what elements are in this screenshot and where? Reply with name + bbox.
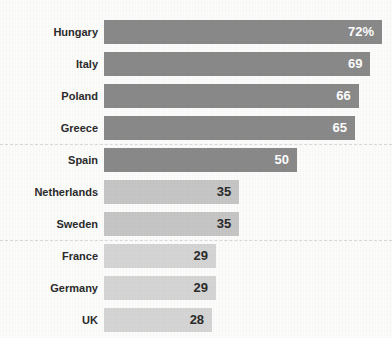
bar: 66	[104, 84, 359, 108]
category-label: France	[0, 244, 98, 268]
category-label: Germany	[0, 276, 98, 300]
cropped-title-remnant	[0, 0, 392, 14]
chart-plot-area: Hungary72%Italy69Poland66Greece65Spain50…	[0, 14, 392, 338]
chart-row: Sweden35	[0, 212, 392, 236]
chart-row: Spain50	[0, 148, 392, 172]
chart-row: Germany29	[0, 276, 392, 300]
bar-value-label: 66	[336, 84, 350, 108]
bar: 35	[104, 212, 239, 236]
bar-value-label: 72%	[348, 20, 374, 44]
bar-value-label: 29	[194, 244, 208, 268]
bar-value-label: 29	[194, 276, 208, 300]
category-label: Hungary	[0, 20, 98, 44]
bar: 28	[104, 308, 212, 332]
chart-row: France29	[0, 244, 392, 268]
bar-value-label: 50	[275, 148, 289, 172]
bar: 29	[104, 244, 216, 268]
bar: 72%	[104, 20, 382, 44]
bar: 65	[104, 116, 355, 140]
chart-row: Poland66	[0, 84, 392, 108]
group-divider	[0, 144, 392, 146]
chart-row: Greece65	[0, 116, 392, 140]
group-divider	[0, 240, 392, 242]
bar-value-label: 65	[333, 116, 347, 140]
bar-chart: Hungary72%Italy69Poland66Greece65Spain50…	[0, 0, 392, 338]
category-label: Italy	[0, 52, 98, 76]
bar: 29	[104, 276, 216, 300]
bar-value-label: 35	[217, 180, 231, 204]
chart-row: Hungary72%	[0, 20, 392, 44]
category-label: UK	[0, 308, 98, 332]
bar: 69	[104, 52, 370, 76]
category-label: Greece	[0, 116, 98, 140]
bar: 35	[104, 180, 239, 204]
category-label: Spain	[0, 148, 98, 172]
category-label: Poland	[0, 84, 98, 108]
bar-value-label: 28	[190, 308, 204, 332]
chart-row: Italy69	[0, 52, 392, 76]
bar-value-label: 35	[217, 212, 231, 236]
chart-row: UK28	[0, 308, 392, 332]
chart-row: Netherlands35	[0, 180, 392, 204]
bar-value-label: 69	[348, 52, 362, 76]
category-label: Netherlands	[0, 180, 98, 204]
bar: 50	[104, 148, 297, 172]
category-label: Sweden	[0, 212, 98, 236]
